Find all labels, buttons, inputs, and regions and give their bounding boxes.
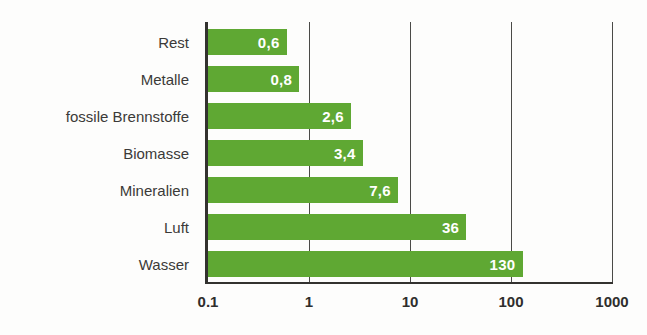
bar-value-label: 3,4 [334, 146, 356, 161]
bar[interactable]: 0,6 [208, 29, 287, 55]
bar[interactable]: 3,4 [208, 140, 363, 166]
bar[interactable]: 130 [208, 251, 523, 277]
x-tick-label: 1000 [595, 294, 628, 309]
bar-row: 0,6 [208, 29, 287, 55]
bar[interactable]: 36 [208, 214, 466, 240]
category-label: Luft [164, 220, 189, 235]
gridline-1000 [612, 22, 613, 283]
bar-row: 2,6 [208, 103, 351, 129]
gridline-10 [410, 22, 411, 283]
category-label: Rest [158, 35, 189, 50]
x-tick-label: 10 [402, 294, 419, 309]
plot-area: 0,60,82,63,47,636130 [208, 22, 612, 283]
category-label: Biomasse [123, 146, 189, 161]
x-tick-label: 100 [498, 294, 523, 309]
x-axis-line [205, 282, 613, 284]
bar[interactable]: 2,6 [208, 103, 351, 129]
category-label: Wasser [139, 257, 189, 272]
bar-value-label: 7,6 [369, 183, 391, 198]
bar-row: 0,8 [208, 66, 299, 92]
bar-value-label: 130 [490, 257, 516, 272]
bar[interactable]: 0,8 [208, 66, 299, 92]
bar-value-label: 0,6 [258, 35, 280, 50]
category-label: Metalle [141, 72, 189, 87]
bar-row: 7,6 [208, 177, 398, 203]
bar-chart: RestMetallefossile BrennstoffeBiomasseMi… [0, 0, 647, 335]
gridline-100 [511, 22, 512, 283]
bar-row: 3,4 [208, 140, 363, 166]
bar-value-label: 36 [442, 220, 459, 235]
bar-value-label: 0,8 [270, 72, 292, 87]
bar-value-label: 2,6 [322, 109, 344, 124]
bar[interactable]: 7,6 [208, 177, 398, 203]
category-label: fossile Brennstoffe [66, 109, 189, 124]
category-label: Mineralien [120, 183, 189, 198]
bar-row: 130 [208, 251, 523, 277]
category-axis: RestMetallefossile BrennstoffeBiomasseMi… [0, 22, 199, 283]
x-tick-label: 1 [305, 294, 313, 309]
bar-row: 36 [208, 214, 466, 240]
x-tick-label: 0.1 [198, 294, 219, 309]
